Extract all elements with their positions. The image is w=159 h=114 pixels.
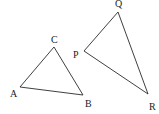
triangle-pqr — [84, 12, 148, 94]
vertex-label-a: A — [10, 88, 18, 99]
vertex-label-c: C — [51, 34, 58, 45]
vertex-label-b: B — [85, 98, 92, 109]
vertex-label-q: Q — [115, 0, 123, 9]
triangles-diagram: A B C P Q R — [0, 0, 159, 114]
vertex-label-r: R — [149, 101, 156, 112]
vertex-label-p: P — [73, 49, 79, 60]
